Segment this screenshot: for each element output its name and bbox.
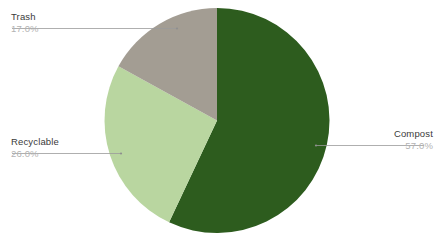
- slice-value-trash: 17.0%: [11, 24, 39, 35]
- slice-value-compost: 57.0%: [394, 141, 433, 152]
- slice-value-recyclable: 26.0%: [11, 149, 59, 160]
- slice-label-recyclable: Recyclable: [11, 137, 59, 148]
- slice-label-compost: Compost: [394, 129, 433, 140]
- slice-callout-recyclable: Recyclable 26.0%: [11, 137, 59, 159]
- slice-callout-compost: Compost 57.0%: [394, 129, 433, 151]
- slice-label-trash: Trash: [11, 12, 39, 23]
- pie-chart-container: Trash 17.0% Recyclable 26.0% Compost 57.…: [0, 0, 434, 239]
- slice-callout-trash: Trash 17.0%: [11, 12, 39, 34]
- pie-chart-graphic: [0, 0, 434, 239]
